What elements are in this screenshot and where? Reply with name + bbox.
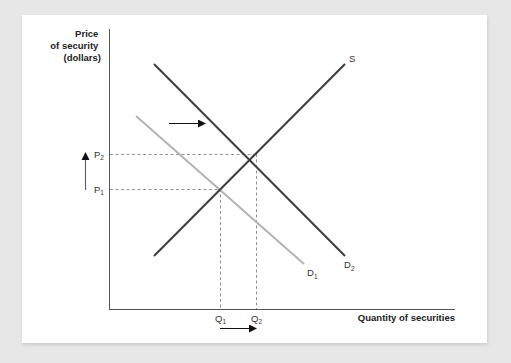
d2-label: D2 [344, 259, 355, 272]
d1-label: D1 [307, 267, 318, 280]
supply-demand-diagram: Price of security (dollars) Quantity of … [0, 0, 511, 363]
supply-label: S [349, 53, 355, 64]
price-up-arrowhead-icon [82, 152, 90, 160]
x-axis-title: Quantity of securities [358, 312, 455, 323]
p2-label: P2 [94, 149, 104, 161]
q2-label: Q2 [251, 313, 262, 325]
y-axis-title: Price of security (dollars) [50, 28, 101, 63]
q1-label: Q1 [215, 313, 226, 325]
p1-label: P1 [94, 184, 104, 196]
